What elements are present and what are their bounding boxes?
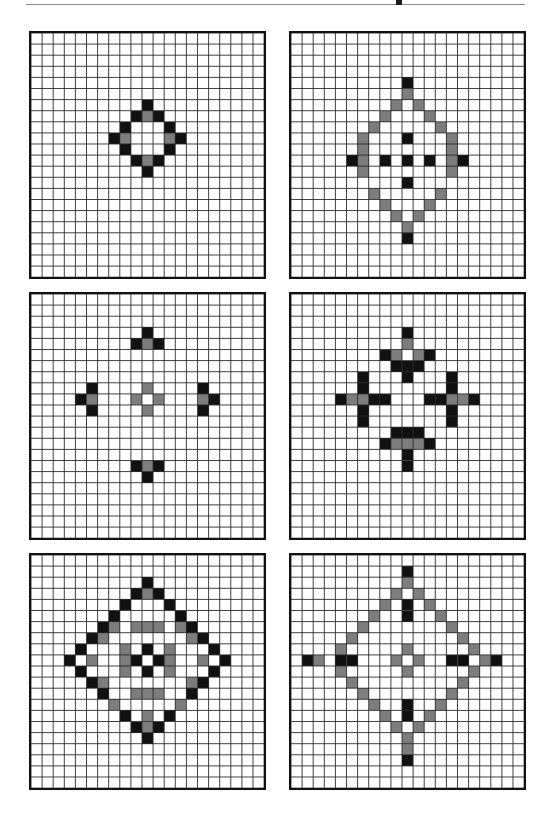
- black-cell: [164, 122, 175, 133]
- gray-cell: [369, 188, 380, 199]
- gray-cell: [358, 688, 369, 699]
- gray-cell: [131, 622, 142, 633]
- gray-cell: [142, 405, 153, 416]
- black-cell: [335, 394, 346, 405]
- black-cell: [131, 155, 142, 166]
- gray-cell: [120, 666, 131, 677]
- black-cell: [153, 461, 164, 472]
- gray-cell: [458, 394, 469, 405]
- gray-cell: [380, 710, 391, 721]
- black-cell: [302, 655, 313, 666]
- gray-cell: [402, 644, 413, 655]
- gray-cell: [164, 133, 175, 144]
- black-cell: [220, 655, 231, 666]
- gray-cell: [358, 394, 369, 405]
- gray-cell: [131, 394, 142, 405]
- gray-cell: [446, 155, 457, 166]
- black-cell: [446, 372, 457, 383]
- black-cell: [142, 644, 153, 655]
- black-cell: [186, 688, 197, 699]
- gray-cell: [446, 166, 457, 177]
- black-cell: [380, 350, 391, 361]
- black-cell: [358, 383, 369, 394]
- gray-cell: [424, 111, 435, 122]
- black-cell: [402, 327, 413, 338]
- black-cell: [209, 644, 220, 655]
- gray-cell: [391, 350, 402, 361]
- gray-cell: [369, 611, 380, 622]
- gray-cell: [369, 699, 380, 710]
- gray-cell: [142, 622, 153, 633]
- gray-cell: [198, 394, 209, 405]
- gray-cell: [175, 622, 186, 633]
- black-cell: [142, 100, 153, 111]
- black-cell: [153, 155, 164, 166]
- black-cell: [120, 710, 131, 721]
- panel-4[interactable]: [289, 292, 526, 540]
- black-cell: [198, 677, 209, 688]
- black-cell: [402, 449, 413, 460]
- black-cell: [402, 699, 413, 710]
- panel-grid-container: [0, 0, 549, 831]
- black-cell: [358, 372, 369, 383]
- black-cell: [209, 666, 220, 677]
- gray-cell: [358, 155, 369, 166]
- black-cell: [142, 327, 153, 338]
- panel-5[interactable]: [29, 553, 266, 790]
- gray-cell: [380, 200, 391, 211]
- gray-cell: [142, 461, 153, 472]
- panel-3[interactable]: [29, 292, 266, 540]
- black-cell: [87, 633, 98, 644]
- black-cell: [402, 177, 413, 188]
- gray-cell: [153, 622, 164, 633]
- black-cell: [75, 666, 86, 677]
- gray-cell: [480, 655, 491, 666]
- gray-cell: [142, 710, 153, 721]
- panel-2[interactable]: [289, 31, 526, 279]
- gray-cell: [413, 211, 424, 222]
- gray-cell: [391, 100, 402, 111]
- black-cell: [198, 405, 209, 416]
- gray-cell: [391, 438, 402, 449]
- black-cell: [402, 710, 413, 721]
- black-cell: [120, 122, 131, 133]
- gray-cell: [142, 688, 153, 699]
- gray-cell: [109, 622, 120, 633]
- gray-cell: [413, 722, 424, 733]
- black-cell: [458, 155, 469, 166]
- black-cell: [347, 655, 358, 666]
- gray-cell: [446, 622, 457, 633]
- panel-6-canvas: [291, 555, 524, 788]
- black-cell: [164, 599, 175, 610]
- black-cell: [402, 461, 413, 472]
- black-cell: [402, 233, 413, 244]
- gray-cell: [109, 699, 120, 710]
- gray-cell: [335, 666, 346, 677]
- gray-cell: [380, 111, 391, 122]
- gray-cell: [435, 188, 446, 199]
- gray-cell: [402, 222, 413, 233]
- gray-cell: [120, 644, 131, 655]
- black-cell: [335, 655, 346, 666]
- gray-cell: [446, 394, 457, 405]
- gray-cell: [446, 133, 457, 144]
- gray-cell: [402, 338, 413, 349]
- black-cell: [142, 166, 153, 177]
- gray-cell: [369, 122, 380, 133]
- gray-cell: [391, 588, 402, 599]
- black-cell: [402, 611, 413, 622]
- black-cell: [458, 655, 469, 666]
- black-cell: [87, 405, 98, 416]
- black-cell: [87, 383, 98, 394]
- black-cell: [198, 383, 209, 394]
- black-cell: [358, 405, 369, 416]
- gray-cell: [413, 588, 424, 599]
- gray-cell: [435, 699, 446, 710]
- gray-cell: [347, 677, 358, 688]
- black-cell: [131, 722, 142, 733]
- panel-6[interactable]: [289, 553, 526, 790]
- black-cell: [153, 722, 164, 733]
- gray-cell: [458, 677, 469, 688]
- panel-1[interactable]: [29, 31, 266, 279]
- gray-cell: [424, 599, 435, 610]
